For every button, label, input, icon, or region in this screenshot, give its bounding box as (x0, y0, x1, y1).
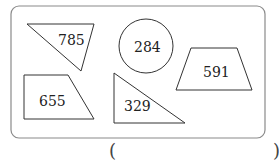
shape-label: 284 (134, 39, 161, 55)
shape-label: 591 (203, 64, 230, 80)
shapes-diagram: 785 284 591 655 329 (0, 0, 279, 167)
shape-label: 329 (124, 98, 151, 114)
shape-label: 655 (39, 93, 66, 109)
answer-open-paren: ( (109, 140, 116, 161)
answer-close-paren: ) (273, 140, 279, 161)
shape-label: 785 (58, 32, 85, 48)
